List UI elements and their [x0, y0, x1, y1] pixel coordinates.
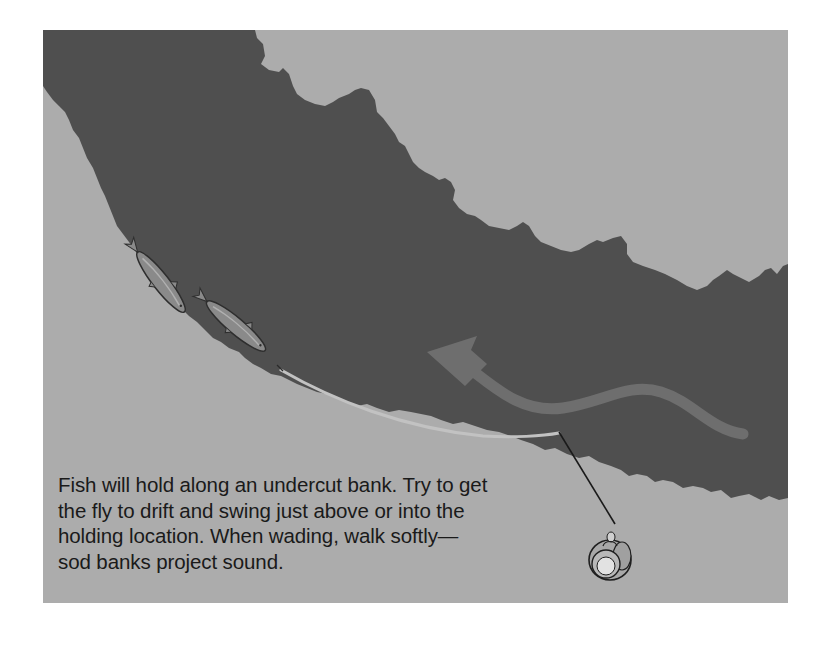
caption-line: the fly to drift and swing just above or…	[58, 498, 578, 524]
caption-line: Fish will hold along an undercut bank. T…	[58, 472, 578, 498]
caption-line: sod banks project sound.	[58, 549, 578, 575]
angler-top-view	[589, 532, 631, 580]
caption-line: holding location. When wading, walk soft…	[58, 523, 578, 549]
figure-caption: Fish will hold along an undercut bank. T…	[58, 472, 578, 574]
river-illustration: Fish will hold along an undercut bank. T…	[43, 30, 788, 603]
